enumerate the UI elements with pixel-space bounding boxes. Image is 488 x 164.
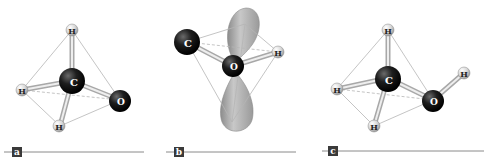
- atom-hydrogen-left: H: [331, 83, 343, 95]
- svg-text:a: a: [14, 147, 20, 157]
- svg-text:H: H: [18, 86, 26, 96]
- atom-carbon: C: [59, 68, 85, 94]
- atom-oxygen: O: [109, 90, 131, 112]
- svg-text:H: H: [274, 48, 282, 58]
- svg-text:c: c: [330, 146, 336, 156]
- panel-a: H C H O H a: [4, 24, 144, 157]
- atom-carbon: C: [375, 66, 401, 92]
- svg-text:O: O: [117, 97, 125, 107]
- svg-text:H: H: [370, 122, 378, 132]
- atom-hydrogen-hydroxyl: H: [458, 67, 470, 79]
- atom-hydrogen: H: [272, 46, 284, 58]
- methanol-geometry-diagram: H C H O H a: [0, 0, 488, 164]
- svg-text:C: C: [184, 38, 192, 49]
- svg-text:C: C: [70, 77, 78, 88]
- panel-label-b: b: [166, 147, 296, 157]
- atom-hydrogen-bottom: H: [368, 120, 380, 132]
- svg-text:b: b: [176, 147, 182, 157]
- atom-oxygen: O: [422, 90, 444, 112]
- panel-c: H C H O H H c: [322, 24, 484, 156]
- svg-text:H: H: [55, 122, 63, 132]
- lone-pair-lobe-lower: [220, 72, 253, 131]
- svg-text:O: O: [230, 62, 238, 72]
- svg-text:H: H: [68, 26, 76, 36]
- atom-carbon: C: [174, 29, 200, 55]
- svg-text:H: H: [384, 26, 392, 36]
- atom-oxygen: O: [222, 55, 244, 77]
- svg-text:C: C: [385, 75, 393, 86]
- svg-text:H: H: [333, 85, 341, 95]
- panel-label-c: c: [322, 146, 484, 156]
- svg-text:H: H: [460, 69, 468, 79]
- atom-hydrogen-left: H: [16, 84, 28, 96]
- panel-label-a: a: [4, 147, 144, 157]
- atom-hydrogen-bottom: H: [53, 120, 65, 132]
- svg-text:O: O: [430, 97, 438, 107]
- panel-b: C O H b: [166, 8, 296, 157]
- atom-hydrogen-top: H: [66, 24, 78, 36]
- atom-hydrogen-top: H: [382, 24, 394, 36]
